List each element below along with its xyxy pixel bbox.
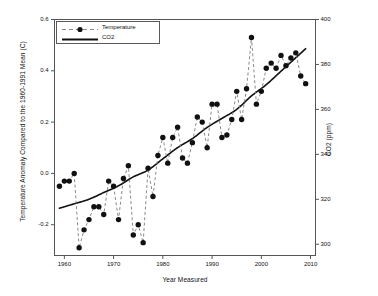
data-point xyxy=(219,135,224,140)
y-axis-left-title: Temperature Anomaly Compared to the 1960… xyxy=(19,22,26,242)
y-axis-left-tick-label: -0.2 xyxy=(19,221,49,227)
data-point xyxy=(268,60,273,65)
data-point xyxy=(195,114,200,119)
data-point xyxy=(67,178,72,183)
data-point xyxy=(224,132,229,137)
x-axis-tick-label: 2010 xyxy=(291,261,331,267)
data-point xyxy=(121,176,126,181)
chart-legend: Temperature CO2 xyxy=(56,21,160,44)
data-point xyxy=(185,160,190,165)
data-point xyxy=(293,50,298,55)
data-point xyxy=(175,125,180,130)
data-point xyxy=(145,166,150,171)
y-axis-right-tick-label: 380 xyxy=(321,61,351,67)
y-axis-left-tick-label: 0.2 xyxy=(19,119,49,125)
chart-figure: Temperature Anomaly Compared to the 1960… xyxy=(0,0,378,296)
data-point xyxy=(62,178,67,183)
data-point xyxy=(57,184,62,189)
data-point xyxy=(160,135,165,140)
legend-item-co2: CO2 xyxy=(60,34,156,45)
data-point xyxy=(278,53,283,58)
y-axis-right-tick-label: 340 xyxy=(321,151,351,157)
chart-canvas xyxy=(0,0,378,296)
data-point xyxy=(214,101,219,106)
data-point xyxy=(136,222,141,227)
data-point xyxy=(155,153,160,158)
data-point xyxy=(288,55,293,60)
legend-label-temperature: Temperature xyxy=(102,24,136,30)
data-point xyxy=(200,119,205,124)
y-axis-right-tick-label: 320 xyxy=(321,196,351,202)
data-point xyxy=(190,140,195,145)
data-point xyxy=(180,155,185,160)
x-axis-tick-label: 1970 xyxy=(94,261,134,267)
data-point xyxy=(170,135,175,140)
data-point xyxy=(96,204,101,209)
y-axis-left-tick-label: 0.6 xyxy=(19,16,49,22)
data-point xyxy=(150,194,155,199)
data-point xyxy=(283,63,288,68)
y-axis-left-tick-label: 0.4 xyxy=(19,67,49,73)
data-point xyxy=(131,232,136,237)
data-point xyxy=(234,89,239,94)
data-point xyxy=(86,217,91,222)
data-point xyxy=(209,101,214,106)
data-point xyxy=(204,145,209,150)
data-point xyxy=(264,66,269,71)
x-axis-tick-label: 1960 xyxy=(44,261,84,267)
data-point xyxy=(116,217,121,222)
data-point xyxy=(140,240,145,245)
data-point xyxy=(303,81,308,86)
plot-frame xyxy=(55,20,316,256)
x-axis-tick-label: 1980 xyxy=(143,261,183,267)
y-axis-left-tick-label: 0.0 xyxy=(19,170,49,176)
data-point xyxy=(239,117,244,122)
x-axis-tick-label: 1990 xyxy=(192,261,232,267)
data-point xyxy=(106,178,111,183)
y-axis-right-tick-label: 400 xyxy=(321,16,351,22)
x-axis-title: Year Measured xyxy=(54,276,316,283)
data-point xyxy=(111,184,116,189)
data-point xyxy=(71,171,76,176)
data-point xyxy=(249,35,254,40)
y-axis-right-tick-label: 360 xyxy=(321,106,351,112)
data-point xyxy=(81,227,86,232)
y-axis-right-title: CO2 (ppm) xyxy=(325,80,332,200)
data-point xyxy=(229,117,234,122)
data-point xyxy=(259,89,264,94)
data-point xyxy=(273,66,278,71)
data-point xyxy=(91,204,96,209)
x-axis-tick-label: 2000 xyxy=(241,261,281,267)
data-point xyxy=(101,212,106,217)
data-point xyxy=(165,160,170,165)
data-point xyxy=(76,245,81,250)
legend-marker-co2 xyxy=(60,34,100,45)
legend-label-co2: CO2 xyxy=(102,34,114,40)
y-axis-right-tick-label: 300 xyxy=(321,241,351,247)
data-point xyxy=(254,101,259,106)
data-point xyxy=(126,163,131,168)
data-point xyxy=(298,73,303,78)
data-point xyxy=(244,86,249,91)
